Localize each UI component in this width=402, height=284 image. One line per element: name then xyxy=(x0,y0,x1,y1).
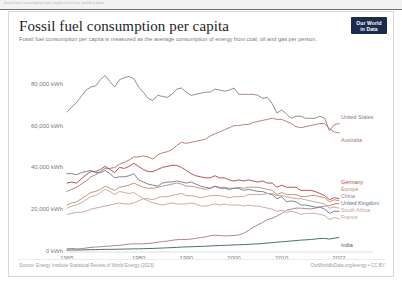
browser-ghost-text: fossil fuel consumption per capita chart… xyxy=(4,0,104,5)
y-axis-tick-label: 80,000 kWh xyxy=(9,81,63,87)
series-line-india[interactable] xyxy=(67,238,339,251)
x-axis-tick-label: 2022 xyxy=(322,255,356,261)
y-axis-tick-label: 60,000 kWh xyxy=(9,123,63,129)
y-axis-tick-label: 0 kWh xyxy=(9,248,63,254)
attribution-note[interactable]: OurWorldInData.org/energy • CC BY xyxy=(310,263,385,268)
series-label-france[interactable]: France xyxy=(341,214,358,220)
chart-svg xyxy=(9,12,395,278)
x-axis-tick-label: 1980 xyxy=(122,255,156,261)
x-axis-tick-label: 2000 xyxy=(217,255,251,261)
browser-chrome-strip: fossil fuel consumption per capita chart… xyxy=(0,0,402,10)
series-label-china[interactable]: China xyxy=(341,193,355,199)
footer-divider xyxy=(17,259,385,260)
series-label-europe[interactable]: Europe xyxy=(341,186,358,192)
x-axis-tick-label: 2010 xyxy=(265,255,299,261)
series-label-united-states[interactable]: United States xyxy=(341,114,373,120)
series-line-australia[interactable] xyxy=(67,118,339,191)
series-line-china[interactable] xyxy=(67,204,339,249)
series-label-south-africa[interactable]: South Africa xyxy=(341,207,370,213)
y-axis-tick-label: 40,000 kWh xyxy=(9,164,63,170)
series-label-united-kingdom[interactable]: United Kingdom xyxy=(341,200,379,206)
line-chart-plot[interactable]: 0 kWh20,000 kWh40,000 kWh60,000 kWh80,00… xyxy=(9,12,395,278)
series-line-south-africa[interactable] xyxy=(67,194,339,215)
series-label-india[interactable]: India xyxy=(341,242,353,248)
x-axis-tick-label: 1990 xyxy=(169,255,203,261)
series-line-france[interactable] xyxy=(67,189,339,219)
source-note: Source: Energy Institute Statistical Rev… xyxy=(19,263,154,268)
series-label-australia[interactable]: Australia xyxy=(341,137,362,143)
x-axis-tick-label: 1965 xyxy=(50,255,84,261)
series-label-germany[interactable]: Germany xyxy=(341,179,363,185)
series-line-united-states[interactable] xyxy=(67,75,339,130)
chart-card: Fossil fuel consumption per capita Fossi… xyxy=(8,11,394,277)
y-axis-tick-label: 20,000 kWh xyxy=(9,206,63,212)
